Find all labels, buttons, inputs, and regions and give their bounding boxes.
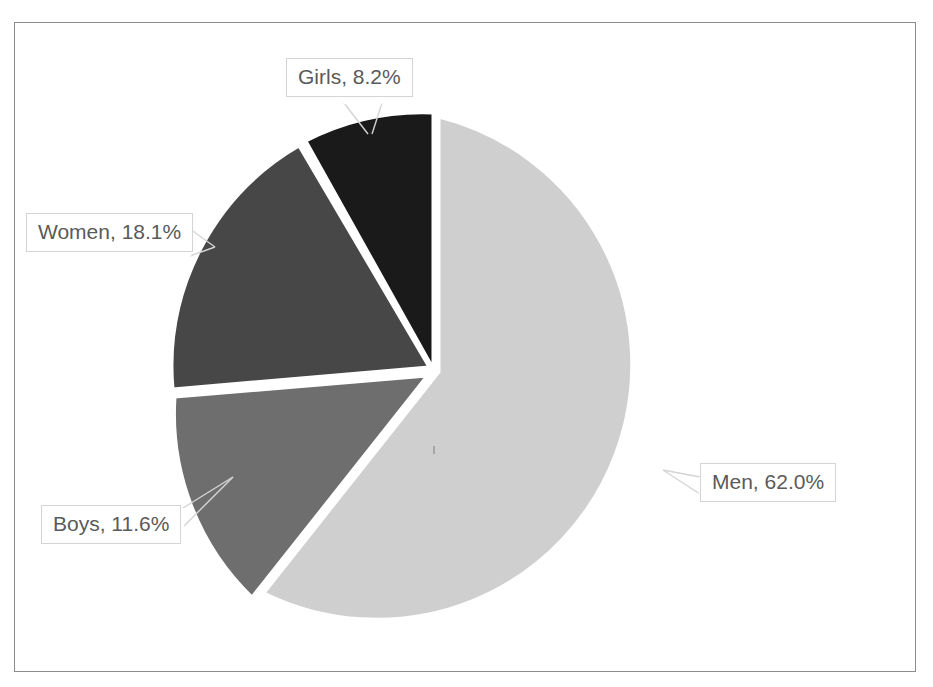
data-label-women[interactable]: Women, 18.1% xyxy=(26,213,193,252)
pie-graphic xyxy=(0,0,933,687)
pie-chart-figure: Girls, 8.2% Women, 18.1% Boys, 11.6% Men… xyxy=(0,0,933,687)
scan-artifact-mark xyxy=(433,446,435,454)
data-label-boys[interactable]: Boys, 11.6% xyxy=(41,505,181,544)
data-label-men[interactable]: Men, 62.0% xyxy=(700,463,836,502)
data-label-girls[interactable]: Girls, 8.2% xyxy=(286,58,413,97)
leader-line-men xyxy=(663,470,700,494)
